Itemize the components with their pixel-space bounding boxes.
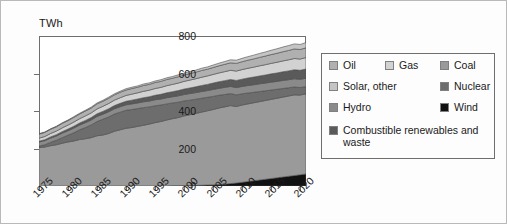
x-tick-label: 1975 <box>30 174 55 199</box>
legend-swatch-icon <box>329 126 338 135</box>
legend-swatch-icon <box>329 103 338 112</box>
legend-label: Nuclear <box>454 81 490 93</box>
y-tick-label: 600 <box>156 68 196 80</box>
legend-label: Gas <box>399 60 418 72</box>
legend-swatch-icon <box>329 82 338 91</box>
y-tick-label: 200 <box>156 143 196 155</box>
chart-container: TWh 8006004002000 1975198019851990199520… <box>0 0 507 224</box>
legend-item: Solar, other <box>329 81 437 93</box>
legend-swatch-icon <box>440 103 449 112</box>
y-tick-mark <box>34 111 39 112</box>
legend-swatch-icon <box>440 61 449 70</box>
legend-label: Oil <box>343 60 356 72</box>
legend-label: Wind <box>454 102 478 114</box>
y-tick-label: 800 <box>156 30 196 42</box>
legend-swatch-icon <box>329 61 338 70</box>
legend-swatch-icon <box>440 82 449 91</box>
legend-item: Nuclear <box>440 81 496 93</box>
legend-label: Combustible renewables and waste <box>343 125 494 148</box>
legend-item: Hydro <box>329 102 437 114</box>
legend-label: Hydro <box>343 102 371 114</box>
legend-label: Coal <box>454 60 476 72</box>
legend-item: Oil <box>329 60 389 72</box>
chart-legend: OilGasCoalSolar, otherNuclearHydroWindCo… <box>321 53 495 159</box>
legend-item: Combustible renewables and waste <box>329 125 494 148</box>
legend-label: Solar, other <box>343 81 397 93</box>
legend-item: Coal <box>440 60 496 72</box>
y-axis-unit-label: TWh <box>39 17 63 29</box>
y-tick-mark <box>34 149 39 150</box>
legend-swatch-icon <box>385 61 394 70</box>
legend-item: Wind <box>440 102 496 114</box>
y-tick-label: 400 <box>156 105 196 117</box>
y-tick-mark <box>34 74 39 75</box>
legend-item: Gas <box>385 60 445 72</box>
